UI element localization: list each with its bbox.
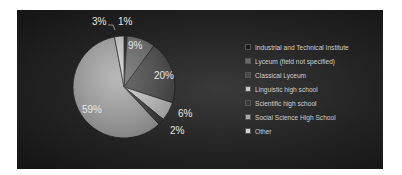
legend-item: Scientific high school	[245, 96, 349, 110]
legend-item: Linguistic high school	[245, 82, 349, 96]
legend-item: Lyceum (field not specified)	[245, 54, 349, 68]
legend-item: Industrial and Technical Institute	[245, 40, 349, 54]
label-industrial: 1%	[118, 16, 132, 27]
label-classical: 20%	[154, 70, 174, 81]
legend-item: Social Science High School	[245, 110, 349, 124]
legend-swatch	[245, 44, 251, 50]
legend-swatch	[245, 86, 251, 92]
label-lyceum: 9%	[128, 40, 142, 51]
legend-swatch	[245, 72, 251, 78]
label-social-science: 59%	[82, 104, 102, 115]
legend-item: Other	[245, 124, 349, 138]
legend: Industrial and Technical Institute Lyceu…	[245, 40, 349, 138]
legend-item: Classical Lyceum	[245, 68, 349, 82]
label-scientific: 2%	[170, 125, 184, 136]
legend-swatch	[245, 100, 251, 106]
leader-line-3	[108, 25, 115, 30]
legend-swatch	[245, 58, 251, 64]
legend-swatch	[245, 128, 251, 134]
legend-swatch	[245, 114, 251, 120]
label-linguistic: 6%	[178, 108, 192, 119]
label-other: 3%	[92, 16, 106, 27]
